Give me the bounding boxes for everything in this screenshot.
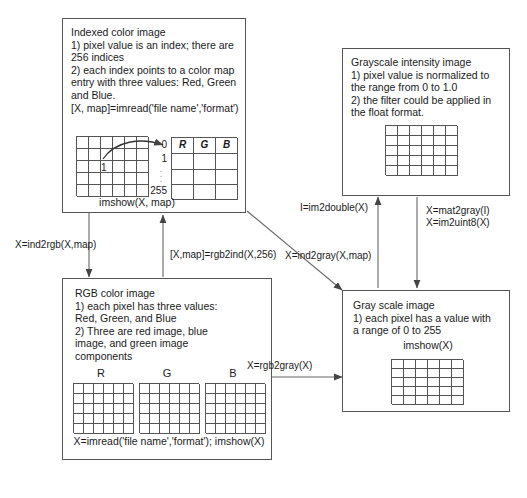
edge-label-mat2gray: X=mat2gray(I) X=im2uint8(X) xyxy=(426,205,490,229)
rgb-channel-label-g: G xyxy=(141,367,193,379)
gray-scale-imshow-label: imshow(X) xyxy=(353,339,503,352)
rgb-grid-red xyxy=(73,383,133,433)
rgb-color-image-box: RGB color image 1) each pixel has three … xyxy=(62,278,272,460)
rgb-color-image-text: RGB color image 1) each pixel has three … xyxy=(75,287,267,363)
indexed-color-image-box: Indexed color image 1) pixel value is an… xyxy=(62,18,246,213)
rgb-grid-green xyxy=(139,383,199,433)
edge-label-ind2rgb: X=ind2rgb(X,map) xyxy=(15,239,96,251)
colormap-header-b: B xyxy=(216,138,238,154)
edge-label-rgb2ind: [X,map]=rgb2ind(X,256) xyxy=(170,249,276,261)
edge-label-rgb2gray: X=rgb2gray(X) xyxy=(247,360,312,372)
colormap-index-0: 0 xyxy=(151,139,167,151)
rgb-imread-label: X=imread('file name','format'); imshow(X… xyxy=(73,435,265,448)
diagram-canvas: Indexed color image 1) pixel value is an… xyxy=(0,0,527,498)
grayscale-intensity-image-text: Grayscale intensity image 1) pixel value… xyxy=(351,56,509,119)
gray-scale-image-text: Gray scale image 1) each pixel has a val… xyxy=(353,299,509,337)
indexed-imshow-label: imshow(X, map) xyxy=(62,196,212,209)
grayscale-intensity-image-box: Grayscale intensity image 1) pixel value… xyxy=(342,48,510,196)
colormap-header-g: G xyxy=(194,138,216,154)
rgb-channel-label-r: R xyxy=(75,367,127,379)
colormap-index-ellipsis: .... xyxy=(155,167,167,187)
grayscale-intensity-grid xyxy=(385,125,457,175)
colormap-table: R G B xyxy=(171,137,237,199)
colormap-header-r: R xyxy=(172,138,194,154)
gray-scale-grid xyxy=(391,359,463,404)
rgb-grid-blue xyxy=(205,383,265,433)
colormap-index-1: 1 xyxy=(151,153,167,165)
edge-label-im2double: I=im2double(X) xyxy=(300,202,368,214)
gray-scale-image-box: Gray scale image 1) each pixel has a val… xyxy=(342,290,510,412)
edge-label-ind2gray: X=ind2gray(X,map) xyxy=(285,250,371,262)
